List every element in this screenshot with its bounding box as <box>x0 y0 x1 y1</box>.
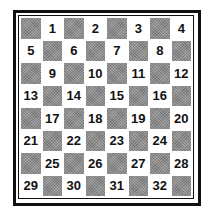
dark-square <box>43 131 63 152</box>
numbered-square-1: 1 <box>42 17 64 40</box>
numbered-square-6: 6 <box>63 40 85 63</box>
numbered-square-15: 15 <box>106 85 128 108</box>
numbered-square-11: 11 <box>128 62 150 85</box>
dark-square <box>21 18 41 39</box>
numbered-square-28: 28 <box>171 152 193 175</box>
dark-square <box>43 41 63 62</box>
dark-square <box>107 18 127 39</box>
numbered-square-22: 22 <box>63 130 85 153</box>
dark-square <box>64 63 84 84</box>
numbered-square-20: 20 <box>171 107 193 130</box>
numbered-square-5: 5 <box>20 40 42 63</box>
numbered-square-2: 2 <box>85 17 107 40</box>
dark-square <box>129 176 149 197</box>
numbered-square-10: 10 <box>85 62 107 85</box>
dark-square <box>21 63 41 84</box>
numbered-square-24: 24 <box>149 130 171 153</box>
dark-square <box>150 18 170 39</box>
numbered-square-4: 4 <box>171 17 193 40</box>
numbered-square-32: 32 <box>149 175 171 198</box>
numbered-square-25: 25 <box>42 152 64 175</box>
numbered-square-9: 9 <box>42 62 64 85</box>
dark-square <box>172 131 192 152</box>
numbered-square-31: 31 <box>106 175 128 198</box>
numbered-square-21: 21 <box>20 130 42 153</box>
dark-square <box>86 86 106 107</box>
numbered-square-8: 8 <box>149 40 171 63</box>
numbered-square-7: 7 <box>106 40 128 63</box>
dark-square <box>21 153 41 174</box>
numbered-square-17: 17 <box>42 107 64 130</box>
numbered-square-29: 29 <box>20 175 42 198</box>
dark-square <box>129 41 149 62</box>
checkerboard-grid: 1234567891011121314151617181920212223242… <box>18 15 194 199</box>
numbered-square-19: 19 <box>128 107 150 130</box>
dark-square <box>150 108 170 129</box>
dark-square <box>64 153 84 174</box>
numbered-square-13: 13 <box>20 85 42 108</box>
numbered-square-27: 27 <box>128 152 150 175</box>
numbered-square-3: 3 <box>128 17 150 40</box>
numbered-square-23: 23 <box>106 130 128 153</box>
dark-square <box>129 131 149 152</box>
numbered-square-16: 16 <box>149 85 171 108</box>
dark-square <box>172 176 192 197</box>
dark-square <box>64 18 84 39</box>
dark-square <box>107 63 127 84</box>
dark-square <box>150 153 170 174</box>
dark-square <box>86 41 106 62</box>
checkerboard: 1234567891011121314151617181920212223242… <box>13 10 201 206</box>
dark-square <box>172 41 192 62</box>
numbered-square-14: 14 <box>63 85 85 108</box>
dark-square <box>172 86 192 107</box>
numbered-square-26: 26 <box>85 152 107 175</box>
dark-square <box>107 108 127 129</box>
dark-square <box>150 63 170 84</box>
dark-square <box>129 86 149 107</box>
dark-square <box>43 86 63 107</box>
dark-square <box>107 153 127 174</box>
dark-square <box>86 131 106 152</box>
dark-square <box>21 108 41 129</box>
dark-square <box>86 176 106 197</box>
numbered-square-18: 18 <box>85 107 107 130</box>
dark-square <box>64 108 84 129</box>
dark-square <box>43 176 63 197</box>
numbered-square-30: 30 <box>63 175 85 198</box>
numbered-square-12: 12 <box>171 62 193 85</box>
